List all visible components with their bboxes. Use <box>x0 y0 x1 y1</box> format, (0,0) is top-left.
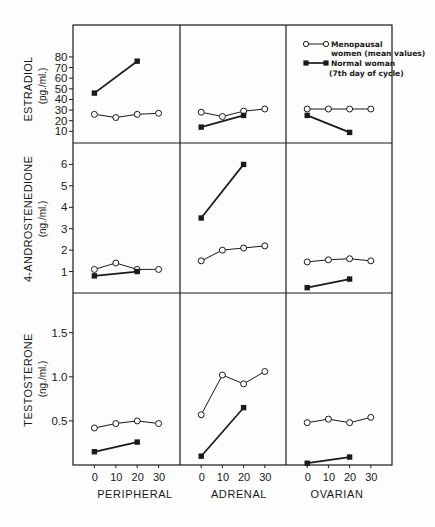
series-line <box>94 61 137 93</box>
series-line <box>307 417 371 422</box>
y-tick-label: 40 <box>55 93 68 105</box>
y-tick-label: 60 <box>55 72 68 84</box>
open-circle-marker-icon <box>91 266 97 272</box>
x-tick-label: 20 <box>238 471 250 483</box>
open-circle-marker-icon <box>156 110 162 116</box>
y-tick-label: 1.5 <box>52 327 68 339</box>
open-circle-marker-icon <box>303 41 308 46</box>
open-circle-marker-icon <box>304 420 310 426</box>
x-axis-peripheral: 0102030 <box>92 465 165 483</box>
panel-testosterone-peripheral <box>91 418 161 455</box>
series-line <box>94 421 158 428</box>
outer-border <box>73 25 392 465</box>
series-line <box>201 408 243 457</box>
open-circle-marker-icon <box>304 259 310 265</box>
filled-square-marker-icon <box>92 90 97 95</box>
legend-label-menopausal-2: women (mean values) <box>331 49 425 58</box>
series-normal-woman <box>92 58 140 95</box>
filled-square-marker-icon <box>92 273 97 278</box>
open-circle-marker-icon <box>91 425 97 431</box>
filled-square-marker-icon <box>323 60 328 65</box>
series-line <box>94 263 158 269</box>
hormone-panel-figure: ESTRADIOL (pg./ml.) 4-ANDROSTENEDIONE (n… <box>0 0 435 527</box>
panel-4-androstenedione-peripheral <box>91 260 161 279</box>
open-circle-marker-icon <box>347 106 353 112</box>
open-circle-marker-icon <box>198 258 204 264</box>
open-circle-marker-icon <box>262 369 268 375</box>
open-circle-marker-icon <box>219 113 225 119</box>
open-circle-marker-icon <box>325 257 331 263</box>
open-circle-marker-icon <box>325 106 331 112</box>
panel-grid-frame <box>73 25 392 465</box>
series-menopausal-women <box>198 369 268 418</box>
x-tick-label: 10 <box>323 471 335 483</box>
open-circle-marker-icon <box>325 416 331 422</box>
y-tick-label: 10 <box>55 125 68 137</box>
series-line <box>307 279 349 288</box>
y-axis-4-androstenedione: 123456 <box>61 158 73 277</box>
x-axis-title-peripheral: PERIPHERAL <box>97 488 173 500</box>
x-tick-label: 30 <box>365 471 377 483</box>
panel-testosterone-ovarian <box>304 414 374 466</box>
filled-square-marker-icon <box>347 276 352 281</box>
y-tick-label: 1.0 <box>52 371 68 383</box>
filled-square-marker-icon <box>305 113 310 118</box>
y-tick-label: 70 <box>55 62 68 74</box>
open-circle-marker-icon <box>368 258 374 264</box>
x-tick-label: 30 <box>259 471 271 483</box>
series-normal-woman <box>92 439 140 454</box>
filled-square-marker-icon <box>241 162 246 167</box>
series-normal-woman <box>199 405 247 459</box>
legend-label-menopausal-1: Menopausal <box>331 40 383 49</box>
y-tick-label: 20 <box>55 115 68 127</box>
x-axis-adrenal: 0102030 <box>199 465 272 483</box>
open-circle-marker-icon <box>156 266 162 272</box>
x-tick-label: 20 <box>344 471 356 483</box>
legend-item-menopausal: Menopausal women (mean values) <box>303 40 425 58</box>
series-menopausal-women <box>304 256 374 265</box>
x-axis-titles: PERIPHERAL ADRENAL OVARIAN <box>97 488 363 500</box>
y-axis-estradiol: 1020304050607080 <box>55 51 73 137</box>
open-circle-marker-icon <box>113 421 119 427</box>
x-tick-label: 0 <box>199 471 205 483</box>
y-tick-label: 0.5 <box>52 415 68 427</box>
open-circle-marker-icon <box>113 260 119 266</box>
open-circle-marker-icon <box>219 247 225 253</box>
open-circle-marker-icon <box>241 245 247 251</box>
filled-square-marker-icon <box>347 130 352 135</box>
y-axis-title-androstenedione: 4-ANDROSTENEDIONE <box>22 156 34 282</box>
open-circle-marker-icon <box>368 414 374 420</box>
series-line <box>94 272 137 276</box>
open-circle-marker-icon <box>113 115 119 121</box>
y-tick-label: 30 <box>55 104 68 116</box>
x-tick-label: 20 <box>132 471 144 483</box>
series-menopausal-women <box>198 243 268 264</box>
plot-layer: 10203040506070801234560.51.01.5010203001… <box>52 51 378 483</box>
panel-testosterone-adrenal <box>198 369 268 459</box>
x-axis-ovarian: 0102030 <box>305 465 378 483</box>
series-line <box>201 164 243 218</box>
open-circle-marker-icon <box>134 111 140 117</box>
filled-square-marker-icon <box>305 285 310 290</box>
y-tick-label: 50 <box>55 83 68 95</box>
y-axis-title-estradiol: ESTRADIOL <box>22 56 34 121</box>
series-line <box>94 442 137 452</box>
open-circle-marker-icon <box>156 421 162 427</box>
y-axis-testosterone: 0.51.01.5 <box>52 327 74 427</box>
y-axis-unit-androstenedione: (ng./ml.) <box>37 201 48 238</box>
legend-label-normal-1: Normal woman <box>331 59 395 68</box>
panel-estradiol-ovarian <box>304 106 374 135</box>
y-axis-unit-estradiol: (pg./ml.) <box>37 68 48 105</box>
x-axis-title-ovarian: OVARIAN <box>311 488 364 500</box>
open-circle-marker-icon <box>347 256 353 262</box>
series-line <box>307 457 349 463</box>
series-menopausal-women <box>304 106 374 112</box>
filled-square-marker-icon <box>199 215 204 220</box>
filled-square-marker-icon <box>241 405 246 410</box>
series-line <box>94 113 158 117</box>
x-tick-label: 0 <box>92 471 98 483</box>
filled-square-marker-icon <box>305 461 310 466</box>
filled-square-marker-icon <box>135 58 140 63</box>
open-circle-marker-icon <box>134 418 140 424</box>
series-normal-woman <box>305 454 353 466</box>
